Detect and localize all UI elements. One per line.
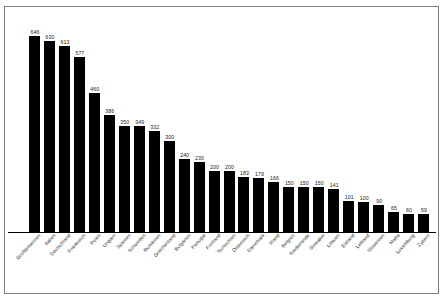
x-axis-tick-label-text: Polen: [89, 233, 102, 246]
bar-value-label: 100: [360, 195, 369, 201]
bar-value-label: 200: [225, 164, 234, 170]
bar: [44, 41, 55, 232]
bar-value-label: 460: [90, 86, 99, 92]
x-axis-tick-label-text: Großbritannien: [15, 233, 42, 261]
bar-value-label: 90: [376, 198, 382, 204]
bar-value-label: 613: [60, 39, 69, 45]
bar-value-label: 179: [255, 171, 264, 177]
bar-value-label: 200: [210, 164, 219, 170]
bar-value-label: 349: [135, 119, 144, 125]
x-axis-tick-label-text: Estland: [341, 233, 357, 249]
bar: [119, 126, 130, 232]
bar-value-label: 166: [270, 175, 279, 181]
bar: [59, 46, 70, 232]
bar-value-label: 577: [75, 50, 84, 56]
bar: [74, 57, 85, 232]
bar-value-label: 65: [391, 205, 397, 211]
bar: [134, 126, 145, 232]
bar-value-label: 150: [300, 180, 309, 186]
x-axis-tick-label-text: Zypern: [416, 233, 431, 248]
plot-area: 6466306135774603863503493323002402302002…: [8, 10, 436, 232]
bar-value-label: 150: [315, 180, 324, 186]
bar-value-label: 386: [105, 108, 114, 114]
bar-value-label: 332: [150, 124, 159, 130]
bar: [29, 36, 40, 232]
bar-value-label: 230: [195, 155, 204, 161]
x-axis-tick-label-text: Malta: [389, 233, 402, 246]
bar-value-label: 183: [240, 170, 249, 176]
bar-value-label: 60: [406, 207, 412, 213]
bar-value-label: 240: [180, 152, 189, 158]
bar-value-label: 101: [345, 194, 354, 200]
bar-value-label: 300: [165, 134, 174, 140]
bar-value-label: 646: [31, 29, 40, 35]
x-axis-labels: GroßbritannienItalienDeutschlandFrankrei…: [8, 233, 436, 295]
bar-value-label: 150: [285, 180, 294, 186]
bar: [104, 115, 115, 232]
chart-screenshot: 6466306135774603863503493323002402302002…: [0, 0, 444, 300]
bar-value-label: 141: [330, 182, 339, 188]
bar: [89, 93, 100, 232]
x-axis-tick-label-text: Litauen: [326, 233, 342, 249]
bar-value-label: 350: [120, 119, 129, 125]
bar-value-label: 630: [45, 34, 54, 40]
bar-value-label: 59: [421, 207, 427, 213]
